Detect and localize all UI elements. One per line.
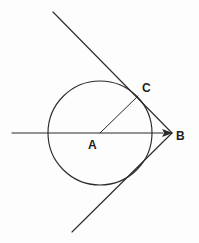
point-label-a: A <box>88 139 97 151</box>
point-label-b: B <box>176 130 185 142</box>
radius-segment-ac <box>100 96 138 133</box>
arrowhead-icon <box>162 129 173 137</box>
lower-tangent-line <box>72 133 172 232</box>
point-label-c: C <box>142 82 151 94</box>
upper-tangent-line <box>53 12 172 133</box>
geometry-diagram: A B C <box>0 0 199 243</box>
diagram-canvas <box>0 0 199 243</box>
